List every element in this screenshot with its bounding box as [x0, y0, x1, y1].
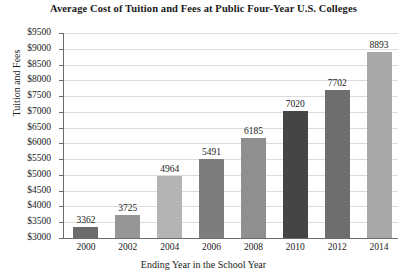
y-tick-label: $5500	[0, 154, 51, 164]
bar-rect[interactable]	[73, 227, 98, 238]
bar-item[interactable]: 7020	[283, 111, 308, 238]
bar-value-label: 7702	[328, 78, 347, 88]
bar-item[interactable]: 5491	[199, 159, 224, 238]
bar-value-label: 5491	[202, 147, 221, 157]
x-axis-line	[63, 238, 398, 239]
x-tick-label: 2004	[160, 242, 179, 252]
bar-rect[interactable]	[325, 90, 350, 238]
plot-area: $3000$3500$4000$4500$5000$5500$6000$6500…	[63, 33, 398, 238]
x-tick-label: 2000	[76, 242, 95, 252]
bar-value-label: 7020	[286, 99, 305, 109]
bar-rect[interactable]	[199, 159, 224, 238]
bar-rect[interactable]	[115, 215, 140, 238]
bar-value-label: 8893	[370, 40, 389, 50]
x-axis-title: Ending Year in the School Year	[0, 259, 407, 270]
bar-item[interactable]: 8893	[367, 52, 392, 238]
y-tick-label: $9000	[0, 44, 51, 54]
y-tick-label: $7500	[0, 91, 51, 101]
y-tick-label: $3000	[0, 233, 51, 243]
x-tick-label: 2014	[370, 242, 389, 252]
bar-item[interactable]: 7702	[325, 90, 350, 238]
bar-value-label: 3725	[118, 203, 137, 213]
bar-value-label: 6185	[244, 126, 263, 136]
y-tick-label: $7000	[0, 107, 51, 117]
chart-title: Average Cost of Tuition and Fees at Publ…	[0, 3, 407, 14]
y-tick-label: $5000	[0, 170, 51, 180]
y-tick-label: $4000	[0, 201, 51, 211]
bar-rect[interactable]	[157, 176, 182, 238]
x-tick-label: 2008	[244, 242, 263, 252]
y-tick-label: $6500	[0, 123, 51, 133]
x-tick-label: 2012	[328, 242, 347, 252]
y-tick-label: $8500	[0, 60, 51, 70]
bar-item[interactable]: 4964	[157, 176, 182, 238]
bar-series: 3362200037252002496420045491200661852008…	[63, 33, 398, 238]
bar-item[interactable]: 3362	[73, 227, 98, 238]
bar-item[interactable]: 6185	[241, 138, 266, 238]
x-tick-label: 2002	[118, 242, 137, 252]
bar-value-label: 3362	[76, 215, 95, 225]
x-tick-label: 2006	[202, 242, 221, 252]
y-tick-label: $8000	[0, 75, 51, 85]
y-tick-label: $4500	[0, 186, 51, 196]
bar-value-label: 4964	[160, 164, 179, 174]
bar-chart: Average Cost of Tuition and Fees at Publ…	[0, 0, 407, 275]
y-tick-label: $6000	[0, 138, 51, 148]
bar-rect[interactable]	[241, 138, 266, 238]
bar-rect[interactable]	[367, 52, 392, 238]
y-tick-label: $9500	[0, 28, 51, 38]
x-tick-label: 2010	[286, 242, 305, 252]
y-tick-label: $3500	[0, 217, 51, 227]
bar-rect[interactable]	[283, 111, 308, 238]
bar-item[interactable]: 3725	[115, 215, 140, 238]
